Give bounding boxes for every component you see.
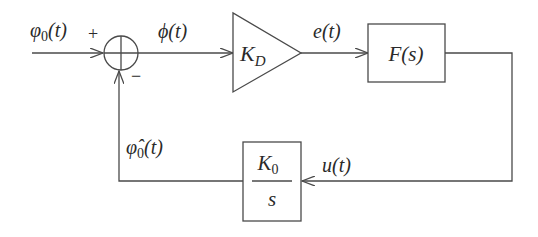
control-label: u(t) — [322, 154, 351, 177]
svg-text:F(s): F(s) — [388, 42, 424, 66]
plus-sign: + — [88, 24, 98, 44]
error-phase-label: ϕ(t) — [158, 20, 188, 43]
block-diagram: φ0(t) + − ϕ(t) KD e(t) F(s) u(t) K0 s φ̂… — [0, 0, 538, 237]
input-label: φ0(t) — [30, 19, 67, 44]
minus-sign: − — [131, 66, 141, 86]
loop-filter-block: F(s) — [368, 24, 445, 82]
estimate-label: φ̂0(t) — [126, 136, 163, 161]
gain-block-kd: KD — [233, 13, 301, 92]
summing-junction — [104, 36, 138, 70]
feedback-path — [119, 71, 243, 181]
svg-text:s: s — [268, 187, 276, 211]
vco-integrator-block: K0 s — [243, 142, 301, 221]
detector-out-label: e(t) — [313, 20, 341, 43]
